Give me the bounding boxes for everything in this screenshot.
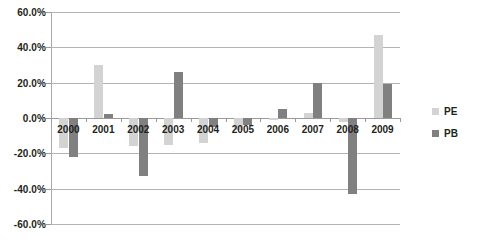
bar-pb-2003	[174, 72, 183, 118]
gridline-40	[51, 47, 400, 48]
x-tick-2003	[156, 118, 157, 122]
x-tick-2006	[260, 118, 261, 122]
x-tick-2005	[226, 118, 227, 122]
x-axis-label-2001: 2001	[92, 124, 114, 135]
y-axis-tick-label: -40.0%	[14, 183, 46, 194]
legend-label: PB	[444, 128, 458, 139]
x-axis-label-2008: 2008	[337, 124, 359, 135]
y-tick--40	[46, 189, 51, 190]
x-axis-label-2003: 2003	[162, 124, 184, 135]
bar-pe-2008	[339, 118, 348, 122]
plot-area: 2000200120022003200420052006200720082009	[51, 12, 400, 224]
x-tick-end	[400, 118, 401, 122]
x-tick-2000	[51, 118, 52, 122]
x-tick-2007	[295, 118, 296, 122]
chart-legend: PEPB	[432, 100, 482, 144]
bar-pb-2001	[104, 114, 113, 118]
x-axis-label-2004: 2004	[197, 124, 219, 135]
y-axis-tick-label: 0.0%	[23, 113, 46, 124]
x-tick-2009	[365, 118, 366, 122]
bar-chart: 60.0%40.0%20.0%0.0%-20.0%-40.0%-60.0% 20…	[0, 0, 487, 249]
x-axis-label-2002: 2002	[127, 124, 149, 135]
x-axis-label-2009: 2009	[371, 124, 393, 135]
y-tick--60	[46, 224, 51, 225]
pe-swatch	[432, 108, 439, 115]
gridline-60	[51, 12, 400, 13]
y-axis-tick-label: -60.0%	[14, 219, 46, 230]
x-tick-2001	[86, 118, 87, 122]
y-tick-40	[46, 47, 51, 48]
x-tick-2004	[191, 118, 192, 122]
y-tick-60	[46, 12, 51, 13]
x-axis-label-2000: 2000	[57, 124, 79, 135]
legend-item-pb[interactable]: PB	[432, 122, 482, 144]
y-axis-tick-label: 40.0%	[17, 42, 46, 53]
y-axis-tick-label: 60.0%	[17, 7, 46, 18]
y-tick--20	[46, 153, 51, 154]
bar-pe-2007	[304, 113, 313, 118]
y-tick-20	[46, 83, 51, 84]
bar-pb-2009	[383, 84, 392, 118]
y-axis-tick-label: -20.0%	[14, 148, 46, 159]
legend-item-pe[interactable]: PE	[432, 100, 482, 122]
gridline--60	[51, 224, 400, 225]
bar-pb-2006	[278, 109, 287, 118]
x-tick-2008	[330, 118, 331, 122]
bar-pe-2006	[269, 118, 278, 120]
pb-swatch	[432, 130, 439, 137]
bar-pe-2009	[374, 35, 383, 118]
x-tick-2002	[121, 118, 122, 122]
x-axis-label-2006: 2006	[267, 124, 289, 135]
bar-pb-2007	[313, 83, 322, 118]
x-axis-label-2005: 2005	[232, 124, 254, 135]
x-axis-label-2007: 2007	[302, 124, 324, 135]
legend-label: PE	[444, 106, 457, 117]
bar-pe-2001	[94, 65, 103, 118]
y-axis-tick-label: 20.0%	[17, 77, 46, 88]
gridline-20	[51, 83, 400, 84]
